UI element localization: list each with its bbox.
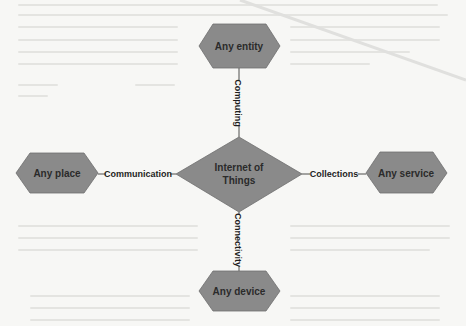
node-label-any-service: Any service [378,168,435,179]
edge-label-collections: Collections [310,169,359,179]
center-label-line1: Internet of [215,162,265,173]
edge-label-connectivity: Connectivity [233,213,243,267]
edge-label-communication: Communication [104,169,172,179]
center-label-line2: Things [223,175,256,186]
node-label-any-entity: Any entity [215,41,264,52]
iot-diagram: Computing Communication Collections Conn… [0,0,466,326]
node-label-any-device: Any device [213,286,266,297]
edge-label-computing: Computing [233,79,243,127]
node-label-any-place: Any place [33,168,81,179]
